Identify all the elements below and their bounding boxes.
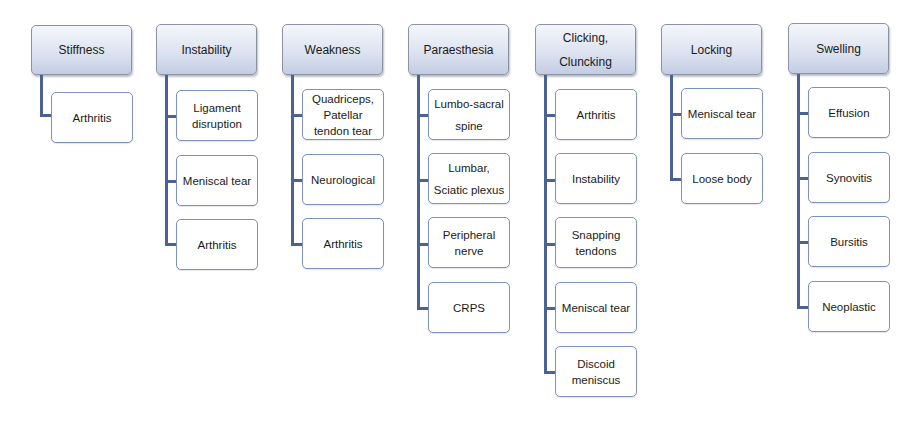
node-weakness-neurological: Neurological — [302, 154, 384, 205]
node-weakness-quadriceps-patellar: Quadriceps, Patellar tendon tear — [302, 89, 384, 140]
connector-horizontal — [291, 243, 302, 246]
connector-horizontal — [291, 114, 302, 117]
node-locking-meniscal-tear: Meniscal tear — [681, 88, 763, 139]
connector-horizontal — [417, 243, 428, 246]
connector-horizontal — [417, 114, 428, 117]
connector-vertical — [417, 75, 420, 310]
column-weakness: Weakness Quadriceps, Patellar tendon tea… — [282, 0, 392, 427]
connector-horizontal — [797, 306, 808, 309]
column-swelling: Swelling Effusion Synovitis Bursitis Neo… — [788, 0, 898, 427]
connector-horizontal — [417, 307, 428, 310]
node-instability-arthritis: Arthritis — [176, 219, 258, 270]
node-swelling-neoplastic: Neoplastic — [808, 281, 890, 332]
connector-horizontal — [165, 180, 176, 183]
connector-vertical — [165, 75, 168, 245]
connector-horizontal — [544, 307, 555, 310]
header-clicking-cluncking: Clicking, Cluncking — [535, 24, 636, 75]
node-paraesthesia-lumbosacral-spine: Lumbo-sacral spine — [428, 89, 510, 140]
connector-horizontal — [165, 243, 176, 246]
header-paraesthesia: Paraesthesia — [408, 24, 509, 75]
symptom-hierarchy-diagram: Stiffness Arthritis Instability Ligament… — [0, 0, 921, 427]
connector-horizontal — [165, 115, 176, 118]
header-stiffness: Stiffness — [31, 25, 132, 75]
connector-horizontal — [797, 177, 808, 180]
connector-horizontal — [544, 114, 555, 117]
node-paraesthesia-lumbar-sciatic-plexus: Lumbar, Sciatic plexus — [428, 153, 510, 204]
node-swelling-effusion: Effusion — [808, 87, 890, 138]
connector-vertical — [670, 75, 673, 181]
node-swelling-bursitis: Bursitis — [808, 216, 890, 267]
connector-vertical — [40, 75, 43, 117]
column-instability: Instability Ligament disruption Meniscal… — [156, 0, 266, 427]
node-locking-loose-body: Loose body — [681, 153, 763, 204]
node-clicking-meniscal-tear: Meniscal tear — [555, 282, 637, 333]
header-swelling: Swelling — [788, 23, 889, 74]
connector-horizontal — [291, 179, 302, 182]
connector-horizontal — [670, 113, 681, 116]
connector-horizontal — [544, 179, 555, 182]
node-instability-ligament-disruption: Ligament disruption — [176, 90, 258, 141]
header-instability: Instability — [156, 24, 257, 75]
connector-horizontal — [417, 179, 428, 182]
header-locking: Locking — [661, 24, 762, 75]
node-paraesthesia-peripheral-nerve: Peripheral nerve — [428, 217, 510, 268]
node-clicking-snapping-tendons: Snapping tendons — [555, 217, 637, 268]
node-swelling-synovitis: Synovitis — [808, 152, 890, 203]
node-instability-meniscal-tear: Meniscal tear — [176, 155, 258, 206]
connector-horizontal — [670, 178, 681, 181]
column-paraesthesia: Paraesthesia Lumbo-sacral spine Lumbar, … — [408, 0, 518, 427]
node-stiffness-arthritis: Arthritis — [51, 92, 133, 143]
connector-horizontal — [544, 243, 555, 246]
connector-horizontal — [40, 114, 51, 117]
node-weakness-arthritis: Arthritis — [302, 218, 384, 269]
node-clicking-instability: Instability — [555, 153, 637, 204]
column-clicking-cluncking: Clicking, Cluncking Arthritis Instabilit… — [535, 0, 645, 427]
node-clicking-arthritis: Arthritis — [555, 89, 637, 140]
connector-vertical — [291, 75, 294, 245]
connector-vertical — [544, 75, 547, 374]
connector-horizontal — [797, 241, 808, 244]
connector-vertical — [797, 74, 800, 309]
connector-horizontal — [797, 112, 808, 115]
connector-horizontal — [544, 371, 555, 374]
node-clicking-discoid-meniscus: Discoid meniscus — [555, 346, 637, 397]
node-paraesthesia-crps: CRPS — [428, 282, 510, 333]
column-locking: Locking Meniscal tear Loose body — [661, 0, 771, 427]
column-stiffness: Stiffness Arthritis — [31, 0, 141, 427]
header-weakness: Weakness — [282, 24, 383, 75]
